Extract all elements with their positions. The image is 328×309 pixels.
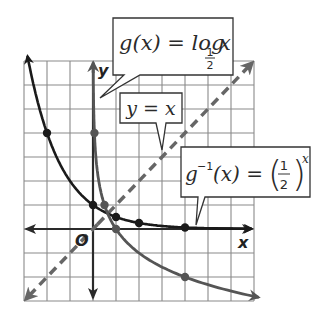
callout-inverse-den: 2 xyxy=(280,177,288,192)
point-logarithm xyxy=(100,201,108,209)
point-exponential xyxy=(181,223,189,231)
callout-log: g(x) = log 1 2 x xyxy=(100,18,233,98)
callout-identity-text: y = x xyxy=(125,97,176,119)
point-exponential xyxy=(89,201,97,209)
origin-label: O xyxy=(75,231,89,250)
y-axis-label: y xyxy=(98,61,109,80)
point-exponential xyxy=(112,213,120,221)
point-logarithm xyxy=(181,273,189,281)
callout-log-arg: x xyxy=(219,31,231,55)
point-logarithm xyxy=(90,129,98,137)
x-axis-label: x xyxy=(237,233,249,252)
callout-log-base-den: 2 xyxy=(207,59,214,72)
series-exponential xyxy=(28,56,252,229)
callout-inverse-num: 1 xyxy=(280,158,288,173)
callout-identity: y = x xyxy=(120,93,182,150)
callout-inverse-sup: −1 xyxy=(197,160,213,173)
callout-inverse-exp: x xyxy=(302,152,309,166)
callout-inverse-g: g xyxy=(185,162,198,186)
callout-inverse-bubble xyxy=(181,147,310,225)
callout-log-base-num: 1 xyxy=(207,46,214,59)
point-logarithm xyxy=(112,225,120,233)
callout-inverse: g −1 (x) = ( 1 2 ) x xyxy=(181,147,310,225)
callout-inverse-mid: (x) = xyxy=(213,162,263,186)
series-exponential-right-arrow xyxy=(208,228,252,229)
point-exponential xyxy=(43,129,51,137)
point-exponential xyxy=(135,219,143,227)
chart: x y O g(x) = log 1 2 x y = x g −1 (x) = … xyxy=(0,0,328,309)
